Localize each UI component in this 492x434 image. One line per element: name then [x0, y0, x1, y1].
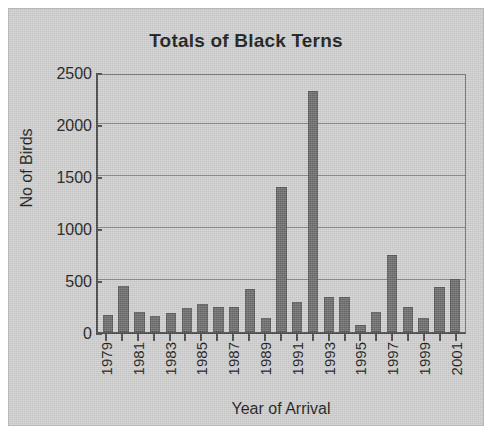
- bar[interactable]: [292, 302, 302, 332]
- bar[interactable]: [387, 255, 397, 332]
- bar[interactable]: [308, 91, 318, 332]
- bar-slot: [163, 75, 179, 332]
- bar[interactable]: [229, 307, 239, 332]
- x-label-slot: [114, 342, 130, 398]
- x-label-slot: 1987: [225, 342, 241, 398]
- x-axis-tick-mark: [280, 334, 282, 341]
- bar[interactable]: [182, 308, 192, 332]
- x-axis-tick-label: 1983: [161, 342, 178, 375]
- x-tick-slot: [257, 334, 273, 341]
- bar[interactable]: [197, 304, 207, 332]
- x-tick-slot: [305, 334, 321, 341]
- bar-slot: [368, 75, 384, 332]
- x-label-slot: 1989: [257, 342, 273, 398]
- x-axis-tick-mark: [121, 334, 123, 341]
- x-axis-tick-label: 1991: [288, 342, 305, 375]
- x-label-slot: 1993: [321, 342, 337, 398]
- bar[interactable]: [276, 187, 286, 332]
- y-axis-tick-label: 0: [38, 325, 92, 343]
- x-axis-tick-label: 1993: [320, 342, 337, 375]
- x-tick-slot: [209, 334, 225, 341]
- y-axis-tick-label: 2500: [38, 65, 92, 83]
- x-axis-tick-mark: [375, 334, 377, 341]
- x-axis-tick-mark: [455, 334, 457, 341]
- bar-series: [98, 75, 465, 332]
- x-label-slot: 1979: [98, 342, 114, 398]
- x-tick-slot: [448, 334, 464, 341]
- x-label-slot: 1997: [384, 342, 400, 398]
- x-axis-tick-label: 1979: [97, 342, 114, 375]
- x-label-slot: [400, 342, 416, 398]
- x-tick-slot: [368, 334, 384, 341]
- x-axis-tick-mark: [423, 334, 425, 341]
- bar-slot: [400, 75, 416, 332]
- y-axis-tick-mark: [96, 229, 102, 231]
- chart-title: Totals of Black Terns: [9, 30, 483, 52]
- bar[interactable]: [166, 313, 176, 332]
- x-axis-tick-mark: [200, 334, 202, 341]
- bar-slot: [179, 75, 195, 332]
- bar-slot: [100, 75, 116, 332]
- x-tick-slot: [337, 334, 353, 341]
- bar-slot: [195, 75, 211, 332]
- x-axis-tick-mark: [248, 334, 250, 341]
- x-axis-tick-mark: [153, 334, 155, 341]
- x-axis-tick-mark: [359, 334, 361, 341]
- x-label-slot: 1995: [353, 342, 369, 398]
- bar[interactable]: [134, 312, 144, 332]
- bar[interactable]: [434, 287, 444, 332]
- bar-slot: [132, 75, 148, 332]
- x-tick-slot: [241, 334, 257, 341]
- x-tick-slot: [114, 334, 130, 341]
- x-axis-tick-mark: [344, 334, 346, 341]
- y-axis-tick-mark: [96, 333, 102, 335]
- x-label-slot: 1981: [130, 342, 146, 398]
- x-axis-tick-mark: [439, 334, 441, 341]
- x-axis-tick-mark: [232, 334, 234, 341]
- x-label-slot: [337, 342, 353, 398]
- y-axis-tick-label: 1000: [38, 221, 92, 239]
- x-axis-tick-mark: [137, 334, 139, 341]
- x-axis-tick-label: 1999: [416, 342, 433, 375]
- y-axis-tick-label: 500: [38, 273, 92, 291]
- bar-slot: [258, 75, 274, 332]
- x-label-slot: 1985: [193, 342, 209, 398]
- bar[interactable]: [261, 318, 271, 332]
- y-axis-tick-mark: [96, 125, 102, 127]
- x-axis-tick-mark: [169, 334, 171, 341]
- bar-slot: [416, 75, 432, 332]
- bar-slot: [384, 75, 400, 332]
- x-tick-slot: [273, 334, 289, 341]
- bar-slot: [210, 75, 226, 332]
- bar-slot: [321, 75, 337, 332]
- bar[interactable]: [324, 297, 334, 332]
- bar[interactable]: [339, 297, 349, 332]
- bar[interactable]: [103, 315, 113, 332]
- y-axis-tick-label: 1500: [38, 169, 92, 187]
- bar[interactable]: [150, 316, 160, 332]
- x-tick-slot: [178, 334, 194, 341]
- y-axis-tick-mark: [96, 281, 102, 283]
- bar[interactable]: [213, 307, 223, 332]
- x-label-slot: 2001: [448, 342, 464, 398]
- x-axis-title: Year of Arrival: [96, 400, 466, 418]
- x-tick-slot: [162, 334, 178, 341]
- y-axis-tick-mark: [96, 73, 102, 75]
- x-axis-tick-label: 2001: [447, 342, 464, 375]
- x-label-slot: [209, 342, 225, 398]
- x-axis-tick-mark: [391, 334, 393, 341]
- bar[interactable]: [418, 318, 428, 332]
- bar-slot: [274, 75, 290, 332]
- bar[interactable]: [403, 307, 413, 332]
- bar[interactable]: [371, 312, 381, 332]
- bar[interactable]: [450, 279, 460, 332]
- x-label-slot: [368, 342, 384, 398]
- x-label-slot: [241, 342, 257, 398]
- x-axis-tick-mark: [328, 334, 330, 341]
- x-axis-tick-mark: [296, 334, 298, 341]
- bar[interactable]: [355, 325, 365, 332]
- bar[interactable]: [118, 286, 128, 332]
- bar[interactable]: [245, 289, 255, 332]
- x-tick-slot: [353, 334, 369, 341]
- x-axis-tick-label: 1997: [384, 342, 401, 375]
